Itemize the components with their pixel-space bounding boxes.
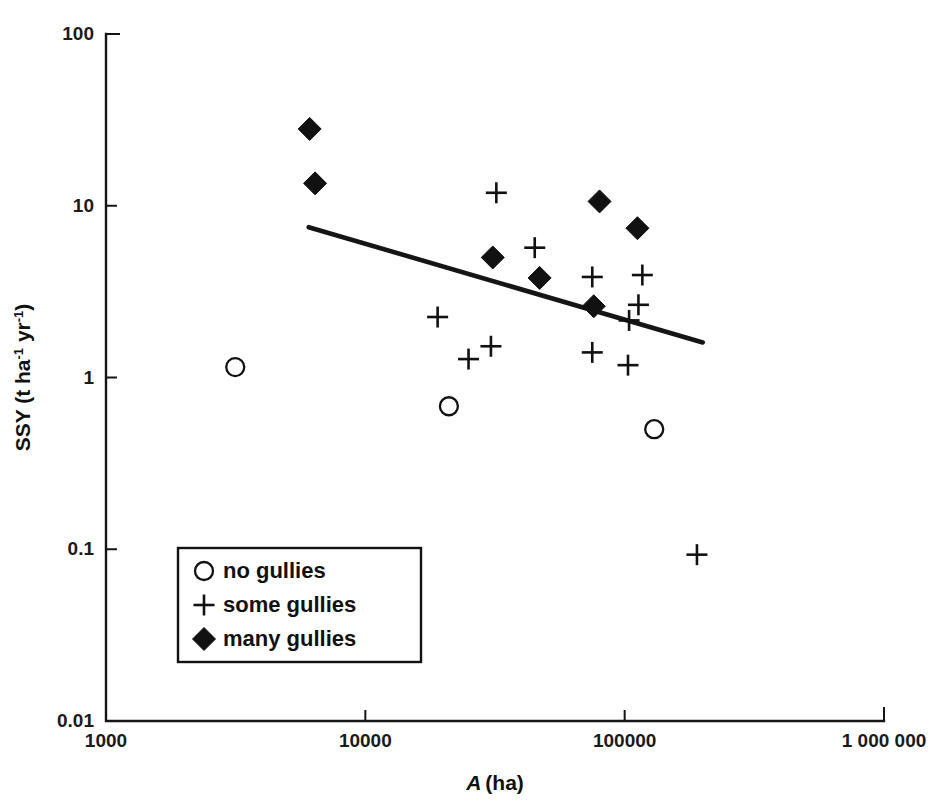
- y-axis-title: SSY (t ha-1 yr-1): [11, 304, 34, 452]
- scatter-plot: 0.010.11101001000100001000001 000 000 no…: [0, 0, 935, 807]
- legend: no gulliessome gulliesmany gullies: [178, 548, 421, 662]
- data-point: [619, 310, 640, 331]
- data-point: [486, 182, 507, 203]
- y-tick-label: 1: [83, 367, 94, 388]
- data-point: [226, 358, 244, 376]
- data-point: [427, 307, 448, 328]
- data-point: [524, 237, 545, 258]
- data-point: [588, 190, 611, 213]
- data-point: [628, 294, 649, 315]
- data-points: [226, 117, 707, 565]
- chart-figure: 0.010.11101001000100001000001 000 000 no…: [0, 0, 935, 807]
- data-point: [632, 265, 653, 286]
- series-many-gullies: [298, 117, 649, 317]
- data-point: [440, 397, 458, 415]
- x-tick-label: 100000: [593, 730, 656, 751]
- series-some-gullies: [427, 182, 707, 565]
- legend-label: some gullies: [223, 592, 356, 617]
- y-tick-label: 0.1: [68, 538, 95, 559]
- data-point: [582, 342, 603, 363]
- y-tick-label: 100: [62, 23, 94, 44]
- data-point: [458, 349, 479, 370]
- y-tick-label: 0.01: [57, 710, 94, 731]
- data-point: [626, 217, 649, 240]
- data-point: [481, 246, 504, 269]
- legend-label: many gullies: [223, 626, 356, 651]
- data-point: [686, 544, 707, 565]
- x-tick-label: 10000: [339, 730, 392, 751]
- series-no-gullies: [226, 358, 663, 438]
- data-point: [528, 266, 551, 289]
- x-tick-label: 1 000 000: [842, 730, 927, 751]
- x-axis-title: A(ha): [465, 771, 524, 794]
- data-point: [617, 355, 638, 376]
- data-point: [298, 117, 321, 140]
- legend-label: no gullies: [223, 558, 326, 583]
- data-point: [304, 172, 327, 195]
- data-point: [645, 420, 663, 438]
- data-point: [582, 266, 603, 287]
- x-tick-label: 1000: [85, 730, 127, 751]
- data-point: [480, 336, 501, 357]
- y-tick-label: 10: [73, 195, 94, 216]
